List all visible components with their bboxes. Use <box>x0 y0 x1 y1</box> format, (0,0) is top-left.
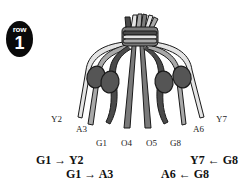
strand-label-y7: Y7 <box>216 114 227 124</box>
strand-label-g8: G8 <box>170 138 181 148</box>
instruction-g1-to-a3: G1 → A3 <box>66 168 113 181</box>
instruction-a6-from-g8: A6 ← G8 <box>161 168 209 181</box>
instruction-y7-from-g8: Y7 ← G8 <box>190 154 238 167</box>
strand-label-a6: A6 <box>193 124 204 134</box>
strand-label-y2: Y2 <box>51 114 62 124</box>
strand-label-a3: A3 <box>76 124 87 134</box>
strand-label-o4: O4 <box>121 138 132 148</box>
knots <box>84 64 193 94</box>
strand-label-g1: G1 <box>96 138 107 148</box>
instruction-g1-to-y2: G1 → Y2 <box>36 154 84 167</box>
strand-label-o5: O5 <box>146 138 157 148</box>
binding-band <box>122 27 158 46</box>
